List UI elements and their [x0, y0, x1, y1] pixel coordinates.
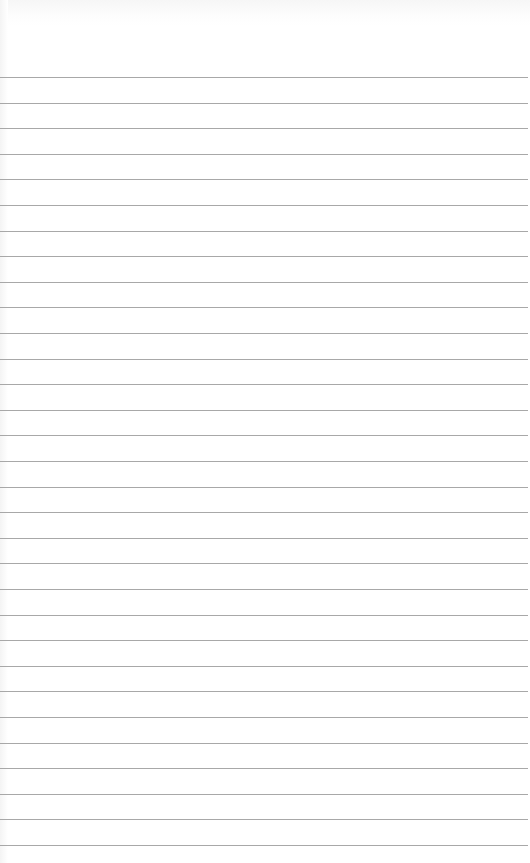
ruled-line — [0, 589, 528, 590]
ruled-line — [0, 77, 528, 78]
ruled-line — [0, 563, 528, 564]
ruled-line — [0, 717, 528, 718]
ruled-line — [0, 487, 528, 488]
ruled-line — [0, 128, 528, 129]
ruled-line — [0, 231, 528, 232]
ruled-line — [0, 794, 528, 795]
ruled-line — [0, 845, 528, 846]
ruled-line — [0, 691, 528, 692]
ruled-line — [0, 154, 528, 155]
ruled-line — [0, 384, 528, 385]
ruled-line — [0, 743, 528, 744]
ruled-line — [0, 615, 528, 616]
ruled-line — [0, 256, 528, 257]
ruled-line — [0, 359, 528, 360]
ruled-line — [0, 103, 528, 104]
ruled-line — [0, 666, 528, 667]
ruled-line — [0, 819, 528, 820]
ruled-line — [0, 461, 528, 462]
ruled-line — [0, 333, 528, 334]
ruled-line — [0, 179, 528, 180]
ruled-line — [0, 205, 528, 206]
ruled-line — [0, 282, 528, 283]
ruled-line — [0, 512, 528, 513]
ruled-line — [0, 435, 528, 436]
page-edge-shade — [0, 0, 8, 863]
ruled-line — [0, 307, 528, 308]
header-margin — [0, 0, 530, 26]
ruled-line — [0, 410, 528, 411]
lined-paper-page — [0, 0, 530, 863]
ruled-line — [0, 538, 528, 539]
ruled-line — [0, 640, 528, 641]
ruled-line — [0, 768, 528, 769]
